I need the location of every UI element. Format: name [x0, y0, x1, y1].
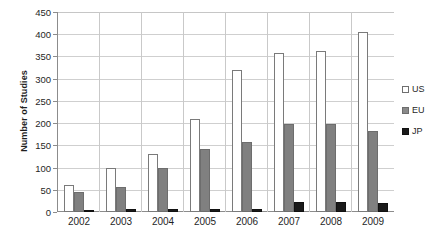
bar-us-2006 [232, 70, 242, 212]
y-axis-tick-label: 200 [18, 118, 51, 129]
bar-jp-2004 [168, 209, 178, 212]
bar-group [142, 12, 184, 212]
bar-us-2004 [148, 154, 158, 212]
bar-chart: Number of Studies 4504003503002502001501… [0, 0, 444, 250]
legend-item-jp: JP [402, 126, 444, 136]
bar-us-2005 [190, 119, 200, 212]
x-axis-tick-label: 2004 [142, 216, 184, 234]
bar-us-2002 [64, 185, 74, 212]
y-axis-tick-label: 0 [18, 207, 51, 218]
bar-jp-2005 [210, 209, 220, 212]
x-axis-tick-label: 2009 [352, 216, 394, 234]
bar-group [226, 12, 268, 212]
bar-eu-2008 [326, 124, 336, 212]
bar-eu-2009 [368, 131, 378, 212]
bar-eu-2004 [158, 168, 168, 212]
bar-eu-2005 [200, 149, 210, 212]
bar-group [184, 12, 226, 212]
bar-jp-2008 [336, 202, 346, 212]
bar-eu-2006 [242, 142, 252, 212]
legend-swatch-jp-icon [402, 128, 409, 135]
y-axis-tick-label: 350 [18, 51, 51, 62]
bar-us-2009 [358, 32, 368, 212]
bar-group [310, 12, 352, 212]
bar-eu-2007 [284, 124, 294, 212]
x-axis-tick-label: 2005 [184, 216, 226, 234]
bar-group [58, 12, 100, 212]
legend-label: US [412, 84, 425, 94]
bar-us-2008 [316, 51, 326, 212]
bar-jp-2009 [378, 203, 388, 212]
x-axis-tick-label: 2006 [226, 216, 268, 234]
chart-legend: USEUJP [402, 84, 444, 147]
legend-label: JP [412, 126, 423, 136]
y-axis-tick-label: 400 [18, 29, 51, 40]
y-axis-tick-label: 250 [18, 95, 51, 106]
legend-label: EU [412, 105, 425, 115]
legend-item-eu: EU [402, 105, 444, 115]
x-axis-tick-label: 2002 [58, 216, 100, 234]
bar-jp-2002 [84, 210, 94, 212]
y-axis-tick-mark [53, 212, 57, 213]
legend-swatch-eu-icon [402, 107, 409, 114]
bar-groups [58, 12, 394, 212]
bar-eu-2003 [116, 187, 126, 212]
x-axis-ticks: 20022003200420052006200720082009 [58, 216, 394, 234]
y-axis-tick-label: 300 [18, 73, 51, 84]
y-axis-tick-label: 450 [18, 7, 51, 18]
bar-group [352, 12, 394, 212]
bar-jp-2006 [252, 209, 262, 212]
bar-eu-2002 [74, 192, 84, 212]
bar-group [100, 12, 142, 212]
legend-swatch-us-icon [402, 86, 409, 93]
x-axis-tick-label: 2003 [100, 216, 142, 234]
y-axis-tick-label: 100 [18, 162, 51, 173]
bar-jp-2007 [294, 202, 304, 212]
bar-group [268, 12, 310, 212]
legend-item-us: US [402, 84, 444, 94]
bar-jp-2003 [126, 209, 136, 212]
x-axis-tick-label: 2008 [310, 216, 352, 234]
x-axis-tick-label: 2007 [268, 216, 310, 234]
bar-us-2007 [274, 53, 284, 212]
bar-us-2003 [106, 168, 116, 212]
y-axis-tick-label: 50 [18, 184, 51, 195]
y-axis-tick-label: 150 [18, 140, 51, 151]
